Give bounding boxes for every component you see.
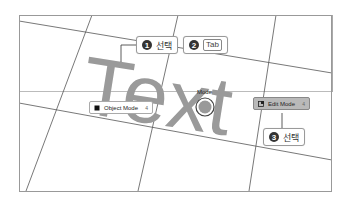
- text-object: Text: [76, 39, 239, 152]
- callout-step-3: 3 선택: [263, 128, 305, 146]
- pie-item-edit-mode[interactable]: Edit Mode 4: [253, 97, 310, 110]
- step-number-badge: 3: [269, 132, 279, 142]
- pie-item-label: Edit Mode: [268, 101, 295, 107]
- edit-mode-icon: [258, 101, 264, 107]
- callout-text: 선택: [283, 131, 299, 144]
- tab-key-label: Tab: [203, 39, 222, 51]
- step-number-badge: 1: [142, 40, 152, 50]
- pie-item-label: Object Mode: [104, 105, 138, 111]
- object-mode-icon: [94, 105, 100, 111]
- callout-text: 선택: [156, 39, 172, 52]
- callout-step-2: 2 Tab: [183, 36, 228, 54]
- hotkey-hint: 4: [145, 105, 148, 111]
- callout-step-1: 1 선택: [136, 36, 178, 54]
- step-number-badge: 2: [189, 40, 199, 50]
- pie-item-object-mode[interactable]: Object Mode 4: [89, 101, 153, 114]
- pie-menu-title: Mode: [197, 89, 212, 95]
- hotkey-hint: 4: [302, 101, 305, 107]
